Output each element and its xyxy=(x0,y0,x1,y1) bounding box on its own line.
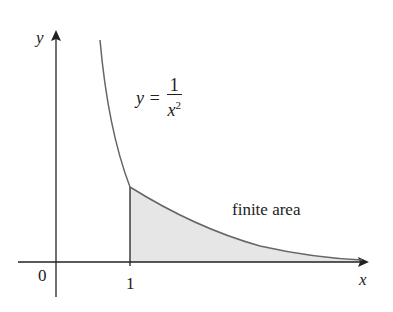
tick-label-one: 1 xyxy=(126,274,135,294)
shaded-region xyxy=(130,187,362,262)
finite-area-label: finite area xyxy=(232,200,300,220)
equation-label: y = 1 x2 xyxy=(136,76,182,120)
equation-lhs: y = xyxy=(136,88,161,109)
y-axis-label: y xyxy=(36,28,44,48)
origin-label: 0 xyxy=(38,266,47,286)
equation-numerator: 1 xyxy=(167,76,182,95)
equation-exponent: 2 xyxy=(175,99,181,111)
x-axis-label: x xyxy=(359,270,367,290)
diagram: y x 0 1 y = 1 x2 finite area xyxy=(0,0,393,312)
plot-canvas xyxy=(0,0,393,312)
